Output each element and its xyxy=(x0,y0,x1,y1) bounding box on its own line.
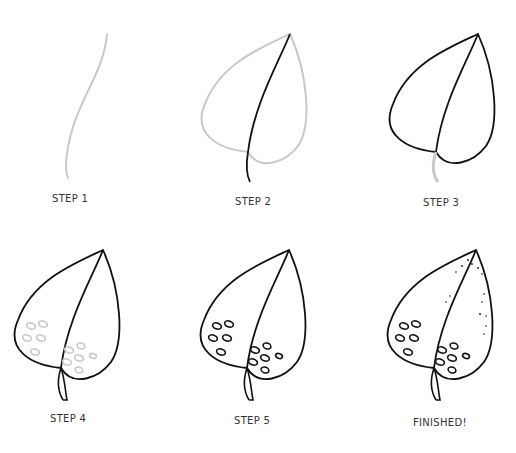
step-5-label: STEP 5 xyxy=(234,415,270,426)
step-2-label: STEP 2 xyxy=(235,196,271,207)
step-5-drawing xyxy=(201,250,306,400)
stipple-dots xyxy=(445,259,487,335)
finished-drawing xyxy=(388,250,493,400)
step-1-label: STEP 1 xyxy=(52,193,88,204)
step-3-label: STEP 3 xyxy=(423,197,459,208)
step-4-drawing xyxy=(15,250,120,400)
step-1-drawing xyxy=(66,34,107,178)
finished-label: FINISHED! xyxy=(413,417,467,428)
tutorial-illustrations xyxy=(0,0,516,453)
step-3-drawing xyxy=(390,34,495,182)
step-4-label: STEP 4 xyxy=(50,413,86,424)
drawing-tutorial: STEP 1 STEP 2 STEP 3 STEP 4 STEP 5 FINIS… xyxy=(0,0,516,453)
step-2-drawing xyxy=(202,34,307,182)
